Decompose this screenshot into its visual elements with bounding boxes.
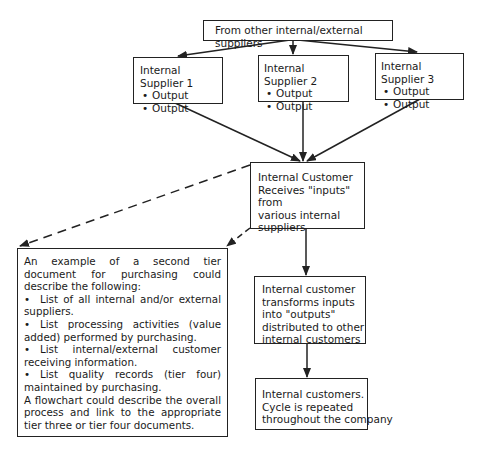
dashed-arrow-customer-to-example-right [227, 228, 250, 246]
transform-line: Internal customer [262, 283, 365, 296]
arrow-top-to-supplier-3 [298, 40, 417, 52]
transform-line: internal customers [262, 333, 365, 346]
example-bullet: •List internal/external customer receivi… [24, 343, 221, 368]
transform-line: distributed to other [262, 321, 365, 334]
cycle-line: Internal customers. [262, 388, 367, 401]
internal-supplier-2-box: Internal Supplier 2 Output Output [258, 55, 349, 102]
output-item: Output [381, 98, 463, 111]
cycle-line: throughout the company [262, 413, 367, 426]
output-item: Output [381, 85, 463, 98]
bullet-glyph: • [24, 343, 40, 356]
bullet-glyph: • [24, 318, 40, 331]
example-bullet: •List quality records (tier four) mainta… [24, 368, 221, 393]
output-item: Output [264, 87, 348, 100]
internal-customer-box: Internal Customer Receives "inputs" from… [250, 162, 365, 229]
customer-line: various internal [258, 209, 364, 222]
cycle-box: Internal customers. Cycle is repeated th… [255, 378, 368, 430]
customer-line: suppliers [258, 221, 364, 234]
example-bullet: •List of all internal and/or external su… [24, 293, 221, 318]
transform-box: Internal customer transforms inputs into… [254, 276, 366, 344]
internal-supplier-3-box: Internal Supplier 3 Output Output [375, 53, 464, 100]
supplier-title: Internal Supplier 3 [381, 60, 463, 85]
internal-supplier-1-box: Internal Supplier 1 Output Output [133, 57, 223, 104]
customer-line: Internal Customer [258, 171, 364, 184]
transform-line: transforms inputs [262, 296, 365, 309]
example-bullet: •List processing activities (value added… [24, 318, 221, 343]
bullet-glyph: • [24, 293, 40, 306]
customer-line: Receives "inputs" from [258, 184, 364, 209]
transform-line: into "outputs" [262, 308, 365, 321]
example-intro: An example of a second tier document for… [24, 255, 221, 293]
output-item: Output [140, 102, 222, 115]
cycle-line: Cycle is repeated [262, 401, 367, 414]
second-tier-example-box: An example of a second tier document for… [17, 248, 228, 437]
bullet-glyph: • [24, 368, 40, 381]
top-suppliers-box: From other internal/external suppliers [203, 20, 393, 41]
output-item: Output [140, 89, 222, 102]
dashed-arrow-customer-to-example-left [20, 165, 250, 246]
supplier-title: Internal Supplier 2 [264, 62, 348, 87]
supplier-title: Internal Supplier 1 [140, 64, 222, 89]
output-item: Output [264, 100, 348, 113]
example-closing: A flowchart could describe the overall p… [24, 394, 221, 432]
